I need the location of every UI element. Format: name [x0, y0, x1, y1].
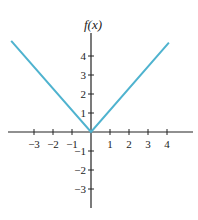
x-tick-label: 4 — [164, 138, 170, 150]
y-tick-label: 4 — [81, 50, 87, 62]
chart-figure: −3−2−112344321−1−2−3 f(x) — [0, 0, 198, 220]
y-tick-label: 3 — [81, 69, 87, 81]
y-tick-label: −2 — [74, 164, 86, 176]
series-line — [11, 41, 169, 132]
chart-svg: −3−2−112344321−1−2−3 f(x) — [0, 0, 198, 220]
y-tick-label: 1 — [81, 107, 87, 119]
x-tick-label: 3 — [145, 138, 151, 150]
x-tick-label: −2 — [47, 138, 59, 150]
x-tick-label: 2 — [126, 138, 132, 150]
series — [11, 41, 169, 132]
y-axis-label: f(x) — [84, 17, 102, 32]
y-tick-label: −1 — [74, 145, 86, 157]
x-tick-label: 1 — [107, 138, 113, 150]
x-tick-label: −3 — [28, 138, 40, 150]
y-tick-label: 2 — [81, 88, 87, 100]
y-tick-label: −3 — [74, 183, 86, 195]
